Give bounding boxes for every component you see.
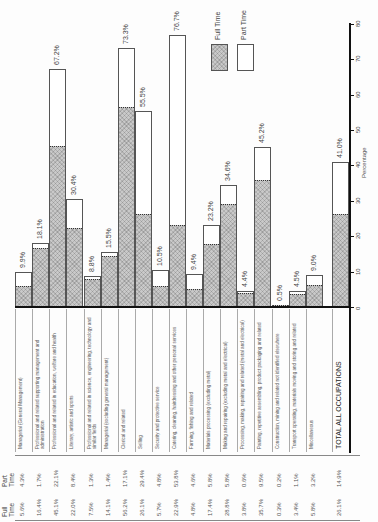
table-cell-part-time: 5.8% <box>224 473 230 487</box>
table-cell-part-time: 4.6% <box>190 473 196 487</box>
category-cell: Construction, mining and related not ide… <box>272 309 289 452</box>
category-label: Managerial (General Management) <box>18 311 23 449</box>
category-cell: Professional and related in education, w… <box>49 309 66 452</box>
category-label: Catering, cleaning, hairdressing and oth… <box>172 311 177 449</box>
table-cell-part-time: 53.8% <box>173 470 179 487</box>
bar-total-label: 76.7% <box>173 12 180 32</box>
category-label: Painting, repetitive assembling, product… <box>257 311 262 449</box>
bar-segment-full-time <box>221 204 236 306</box>
bar-14 <box>254 147 271 307</box>
category-cell: Managerial (excluding general management… <box>101 309 118 452</box>
table-cell-full-time: 14.1% <box>105 499 111 516</box>
table-cell-full-time: 28.8% <box>224 499 230 516</box>
bar-9 <box>169 35 186 307</box>
table-cell-full-time: 5.8% <box>310 502 316 516</box>
category-cell: Miscellaneous <box>306 309 323 452</box>
axis-tick-label: 80 <box>355 20 361 27</box>
category-label: Materials processing (excluding metal) <box>206 311 211 449</box>
axis-tick-label: 10 <box>355 268 361 275</box>
table-cell-part-time: 22.1% <box>53 470 59 487</box>
bar-total-label: 4.5% <box>293 271 300 287</box>
bar-segment-full-time <box>33 248 48 306</box>
bar-total-label: 23.2% <box>207 201 214 221</box>
table-cell-full-time: 5.7% <box>156 502 162 516</box>
bar-total-label: 34.6% <box>224 161 231 181</box>
axis-tick <box>351 24 354 25</box>
bar-segment-full-time <box>119 107 134 306</box>
category-cell: Processing, making, repairing and relate… <box>237 309 254 452</box>
bar-total-label: 67.2% <box>53 45 60 65</box>
bar-segment-full-time <box>204 244 219 306</box>
category-label: Miscellaneous <box>309 311 314 449</box>
axis-tick <box>351 307 354 308</box>
category-cell: Farming, fishing and related <box>186 309 203 452</box>
category-cell: Professional and related supporting mana… <box>32 309 49 452</box>
category-label: Clerical and related <box>121 311 126 449</box>
table-cell-full-time: 16.4% <box>36 499 42 516</box>
bar-8 <box>152 270 169 307</box>
bar-1 <box>32 243 49 307</box>
bar-total-label: 0.5% <box>276 285 283 301</box>
bar-segment-full-time <box>187 289 202 306</box>
bar-total-label: 9.9% <box>19 252 26 268</box>
bar-3 <box>66 199 83 307</box>
bar-16 <box>289 291 306 307</box>
legend-swatch-full-time <box>211 44 228 71</box>
bar-total-label: 15.5% <box>105 228 112 248</box>
category-cell: Painting, repetitive assembling, product… <box>254 309 271 452</box>
category-cell: Catering, cleaning, hairdressing and oth… <box>169 309 186 452</box>
legend-label-full-time: Full Time <box>214 12 221 40</box>
axis-tick <box>351 236 354 237</box>
category-label: Transport operating, materials moving an… <box>292 311 297 449</box>
category-label: Selling <box>138 311 143 449</box>
category-cell: TOTAL ALL OCCUPATIONS <box>332 309 349 452</box>
legend-swatch-part-time <box>237 44 254 71</box>
category-label: Literary, artistic and sports <box>69 311 74 449</box>
table-cell-part-time: 0.2% <box>276 473 282 487</box>
axis-tick <box>351 201 354 202</box>
bar-10 <box>186 274 203 307</box>
axis-tick <box>351 130 354 131</box>
bar-segment-full-time <box>136 214 151 306</box>
category-cell: Security and protective service <box>152 309 169 452</box>
bar-total-label: 8.8% <box>88 256 95 272</box>
bar-segment-full-time <box>153 286 168 306</box>
bar-segment-full-time <box>16 286 31 306</box>
percentage-axis <box>349 23 351 453</box>
table-cell-part-time: 1.7% <box>36 473 42 487</box>
category-label: Farming, fishing and related <box>189 311 194 449</box>
bar-11 <box>203 225 220 307</box>
table-cell-part-time: 17.1% <box>122 470 128 487</box>
bar-18 <box>332 162 349 307</box>
table-cell-part-time: 14.9% <box>336 470 342 487</box>
table-cell-part-time: 1.1% <box>293 473 299 487</box>
category-cell: Selling <box>135 309 152 452</box>
table-cell-full-time: 3.8% <box>241 502 247 516</box>
table-cell-part-time: 8.4% <box>70 473 76 487</box>
bar-segment-full-time <box>290 294 305 306</box>
bar-segment-full-time <box>255 180 270 306</box>
bar-5 <box>101 252 118 307</box>
bar-total-label: 4.4% <box>241 271 248 287</box>
category-cell: Making and repairing (excluding metal an… <box>220 309 237 452</box>
bar-6 <box>118 48 135 307</box>
category-cell: Materials processing (excluding metal) <box>203 309 220 452</box>
table-cell-part-time: 1.4% <box>105 473 111 487</box>
bar-7 <box>135 111 152 307</box>
table-cell-part-time: 29.4% <box>139 470 145 487</box>
axis-tick <box>351 165 354 166</box>
axis-tick-label: 0 <box>355 307 361 310</box>
table-cell-full-time: 7.5% <box>88 502 94 516</box>
bar-segment-full-time <box>85 279 100 306</box>
bar-13 <box>237 291 254 307</box>
baseline <box>15 306 350 308</box>
bar-total-label: 55.5% <box>139 87 146 107</box>
bar-segment-full-time <box>67 228 82 306</box>
table-cell-full-time: 17.4% <box>207 499 213 516</box>
table-header-part-time: Part Time <box>2 463 15 487</box>
table-cell-full-time: 22.0% <box>70 499 76 516</box>
bar-total-label: 30.4% <box>70 176 77 196</box>
table-cell-full-time: 26.1% <box>139 499 145 516</box>
bar-4 <box>84 276 101 307</box>
table-cell-full-time: 35.7% <box>258 499 264 516</box>
